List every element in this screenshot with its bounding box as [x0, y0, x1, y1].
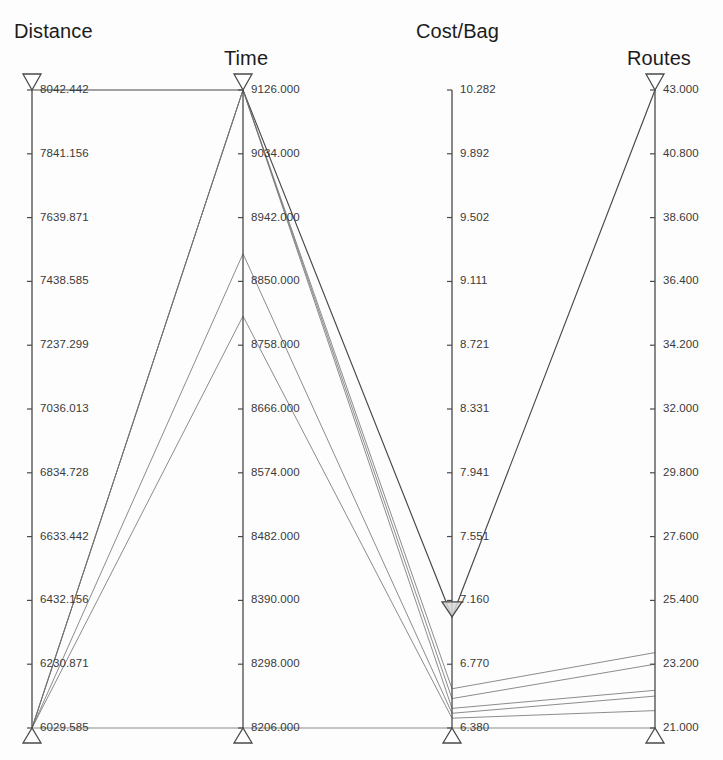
tick-label: 8390.000: [251, 593, 300, 605]
tick-label: 23.200: [663, 657, 699, 669]
axis-range-handle-top[interactable]: [646, 74, 664, 90]
tick-label: 6.770: [460, 657, 489, 669]
tick-label: 8.721: [460, 338, 489, 350]
tick-label: 10.282: [460, 83, 496, 95]
tick-label: 29.800: [663, 466, 699, 478]
axis-range-handle-bottom[interactable]: [234, 728, 252, 743]
axis-group: [27, 90, 655, 728]
tick-label: 7.160: [460, 593, 489, 605]
tick-label: 9.892: [460, 147, 489, 159]
polyline-route-2[interactable]: [32, 90, 655, 728]
tick-label: 8574.000: [251, 466, 300, 478]
tick-label: 9.502: [460, 211, 489, 223]
tick-label: 25.400: [663, 593, 699, 605]
tick-label: 36.400: [663, 274, 699, 286]
tick-label: 9034.000: [251, 147, 300, 159]
axis-title-distance: Distance: [14, 20, 93, 43]
tick-label: 7.941: [460, 466, 489, 478]
tick-label: 6834.728: [40, 466, 89, 478]
polyline-route-3[interactable]: [32, 90, 655, 728]
tick-label: 32.000: [663, 402, 699, 414]
tick-label: 8298.000: [251, 657, 300, 669]
tick-label: 27.600: [663, 530, 699, 542]
axis-range-handle-bottom[interactable]: [646, 728, 664, 743]
polyline-route-5[interactable]: [32, 254, 655, 728]
tick-label: 6.380: [460, 721, 489, 733]
axis-range-handle-top[interactable]: [23, 74, 41, 90]
tick-label: 40.800: [663, 147, 699, 159]
tick-label: 8206.000: [251, 721, 300, 733]
tick-label: 8666.000: [251, 402, 300, 414]
parallel-coordinates-figure: Distance Time Cost/Bag Routes 8042.44278…: [0, 0, 723, 760]
tick-label: 7639.871: [40, 211, 89, 223]
tick-label: 7438.585: [40, 274, 89, 286]
axis-range-handle-bottom[interactable]: [23, 728, 41, 743]
axis-title-routes: Routes: [627, 47, 691, 70]
tick-label: 6432.156: [40, 593, 89, 605]
axis-range-handle-bottom[interactable]: [443, 728, 461, 743]
tick-label: 8758.000: [251, 338, 300, 350]
tick-label: 9126.000: [251, 83, 300, 95]
tick-label: 8850.000: [251, 274, 300, 286]
tick-label: 8482.000: [251, 530, 300, 542]
axis-title-time: Time: [224, 47, 268, 70]
plot-canvas: [0, 0, 723, 760]
tick-label: 8.331: [460, 402, 489, 414]
tick-label: 43.000: [663, 83, 699, 95]
polyline-group: [32, 90, 655, 728]
polyline-route-4[interactable]: [32, 90, 655, 728]
tick-label: 7.551: [460, 530, 489, 542]
tick-label: 38.600: [663, 211, 699, 223]
tick-label: 8942.000: [251, 211, 300, 223]
tick-label: 6029.585: [40, 721, 89, 733]
axis-range-handle-top[interactable]: [234, 74, 252, 90]
tick-label: 7841.156: [40, 147, 89, 159]
tick-label: 6230.871: [40, 657, 89, 669]
tick-label: 8042.442: [40, 83, 89, 95]
tick-label: 21.000: [663, 721, 699, 733]
tick-label: 9.111: [460, 274, 488, 286]
tick-label: 6633.442: [40, 530, 89, 542]
tick-label: 34.200: [663, 338, 699, 350]
polyline-route-1[interactable]: [32, 90, 655, 617]
axis-title-cost: Cost/Bag: [416, 20, 499, 43]
axis-slider-handle[interactable]: [442, 602, 462, 617]
tick-label: 7036.013: [40, 402, 89, 414]
tick-label: 7237.299: [40, 338, 89, 350]
handle-group: [23, 74, 664, 743]
